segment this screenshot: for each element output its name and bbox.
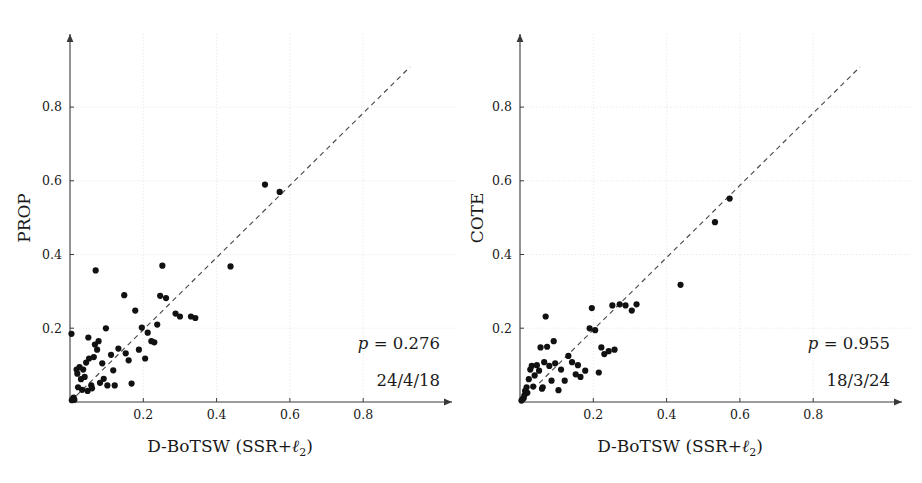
y-tick-label: 0.6 xyxy=(42,173,62,188)
data-point xyxy=(569,359,575,365)
x-tick-label: 0.4 xyxy=(207,407,227,422)
x-tick-labels-left: 0.2 0.4 0.6 0.8 xyxy=(133,407,373,422)
data-point xyxy=(262,181,268,187)
data-point xyxy=(727,195,733,201)
data-point xyxy=(157,293,163,299)
annotation-pvalue-right: p = 0.955 18/3/24 xyxy=(808,334,890,390)
y-tick-label: 0.8 xyxy=(492,99,512,114)
y-axis-label: PROP xyxy=(14,193,34,243)
data-point xyxy=(142,355,148,361)
p-number: 0.276 xyxy=(393,334,440,353)
data-point xyxy=(136,347,142,353)
win-tie-loss-text: 18/3/24 xyxy=(826,371,890,390)
x-tick-label: 0.4 xyxy=(657,407,677,422)
x-axis-label-main: D-BoTSW (SSR+ xyxy=(597,436,742,456)
data-point xyxy=(677,282,683,288)
data-point xyxy=(633,301,639,307)
data-point xyxy=(524,384,530,390)
y-axis-label: COTE xyxy=(467,193,487,244)
x-tick-label: 0.2 xyxy=(583,407,603,422)
y-tick-labels-left: 0.2 0.4 0.6 0.8 xyxy=(42,99,62,335)
data-point xyxy=(592,327,598,333)
data-point xyxy=(80,366,86,372)
ell-symbol: ℓ xyxy=(742,436,749,456)
data-point xyxy=(541,359,547,365)
x-axis-label-main: D-BoTSW (SSR+ xyxy=(147,436,292,456)
data-point xyxy=(93,267,99,273)
p-value-text: p = 0.955 xyxy=(808,334,890,353)
x-axis-label-close: ) xyxy=(306,436,313,456)
data-point xyxy=(94,347,100,353)
p-symbol: p xyxy=(358,334,369,353)
data-point xyxy=(562,378,568,384)
p-equals: = xyxy=(818,334,842,353)
data-point xyxy=(104,382,110,388)
data-point xyxy=(112,382,118,388)
data-point xyxy=(598,344,604,350)
x-axis-label: D-BoTSW (SSR+ℓ2) xyxy=(597,436,763,459)
ell-subscript: 2 xyxy=(299,446,306,459)
data-point xyxy=(85,334,91,340)
data-point xyxy=(227,263,233,269)
data-point xyxy=(95,338,101,344)
data-point xyxy=(577,374,583,380)
x-tick-label: 0.6 xyxy=(280,407,300,422)
data-point xyxy=(537,344,543,350)
data-point xyxy=(530,383,536,389)
data-point xyxy=(192,315,198,321)
data-point xyxy=(82,374,88,380)
panel-prop-svg: 0.2 0.4 0.6 0.8 0.2 0.4 0.6 0.8 PROP D-B… xyxy=(0,0,461,483)
data-point xyxy=(71,397,77,403)
data-point xyxy=(552,360,558,366)
data-point xyxy=(177,313,183,319)
panel-prop: 0.2 0.4 0.6 0.8 0.2 0.4 0.6 0.8 PROP D-B… xyxy=(0,0,461,483)
y-tick-label: 0.2 xyxy=(492,321,512,336)
data-points-left xyxy=(68,181,282,403)
data-point xyxy=(548,378,554,384)
data-point xyxy=(536,368,542,374)
data-point xyxy=(277,189,283,195)
data-point xyxy=(115,345,121,351)
data-point xyxy=(68,331,74,337)
data-point xyxy=(154,322,160,328)
data-point xyxy=(526,376,532,382)
p-value-text: p = 0.276 xyxy=(358,334,440,353)
data-point xyxy=(606,348,612,354)
data-point xyxy=(91,354,97,360)
ell-symbol: ℓ xyxy=(292,436,299,456)
data-point xyxy=(108,352,114,358)
data-point xyxy=(103,325,109,331)
data-points-right xyxy=(518,195,732,403)
data-point xyxy=(565,353,571,359)
p-equals: = xyxy=(368,334,392,353)
data-point xyxy=(132,308,138,314)
x-axis-label: D-BoTSW (SSR+ℓ2) xyxy=(147,436,313,459)
y-tick-label: 0.4 xyxy=(492,247,512,262)
data-point xyxy=(163,295,169,301)
data-point xyxy=(551,338,557,344)
x-axis-title-right: D-BoTSW (SSR+ℓ2) xyxy=(597,436,763,459)
annotation-pvalue-left: p = 0.276 24/4/18 xyxy=(358,334,440,390)
x-tick-label: 0.8 xyxy=(803,407,823,422)
data-point xyxy=(534,362,540,368)
y-tick-label: 0.8 xyxy=(42,99,62,114)
data-point xyxy=(128,380,134,386)
p-number: 0.955 xyxy=(843,334,890,353)
y-tick-labels-right: 0.2 0.4 0.6 0.8 xyxy=(492,99,512,335)
data-point xyxy=(121,292,127,298)
data-point xyxy=(123,350,129,356)
panel-cote: 0.2 0.4 0.6 0.8 0.2 0.4 0.6 0.8 COTE D-B… xyxy=(461,0,922,483)
y-axis-title-left: PROP xyxy=(14,193,34,243)
data-point xyxy=(540,384,546,390)
data-point xyxy=(555,387,561,393)
data-point xyxy=(558,366,564,372)
data-point xyxy=(145,330,151,336)
data-point xyxy=(617,301,623,307)
data-point xyxy=(589,305,595,311)
data-point xyxy=(596,369,602,375)
data-point xyxy=(151,339,157,345)
x-axis-title-left: D-BoTSW (SSR+ℓ2) xyxy=(147,436,313,459)
y-tick-label: 0.4 xyxy=(42,247,62,262)
data-point xyxy=(712,219,718,225)
panel-cote-svg: 0.2 0.4 0.6 0.8 0.2 0.4 0.6 0.8 COTE D-B… xyxy=(461,0,922,483)
